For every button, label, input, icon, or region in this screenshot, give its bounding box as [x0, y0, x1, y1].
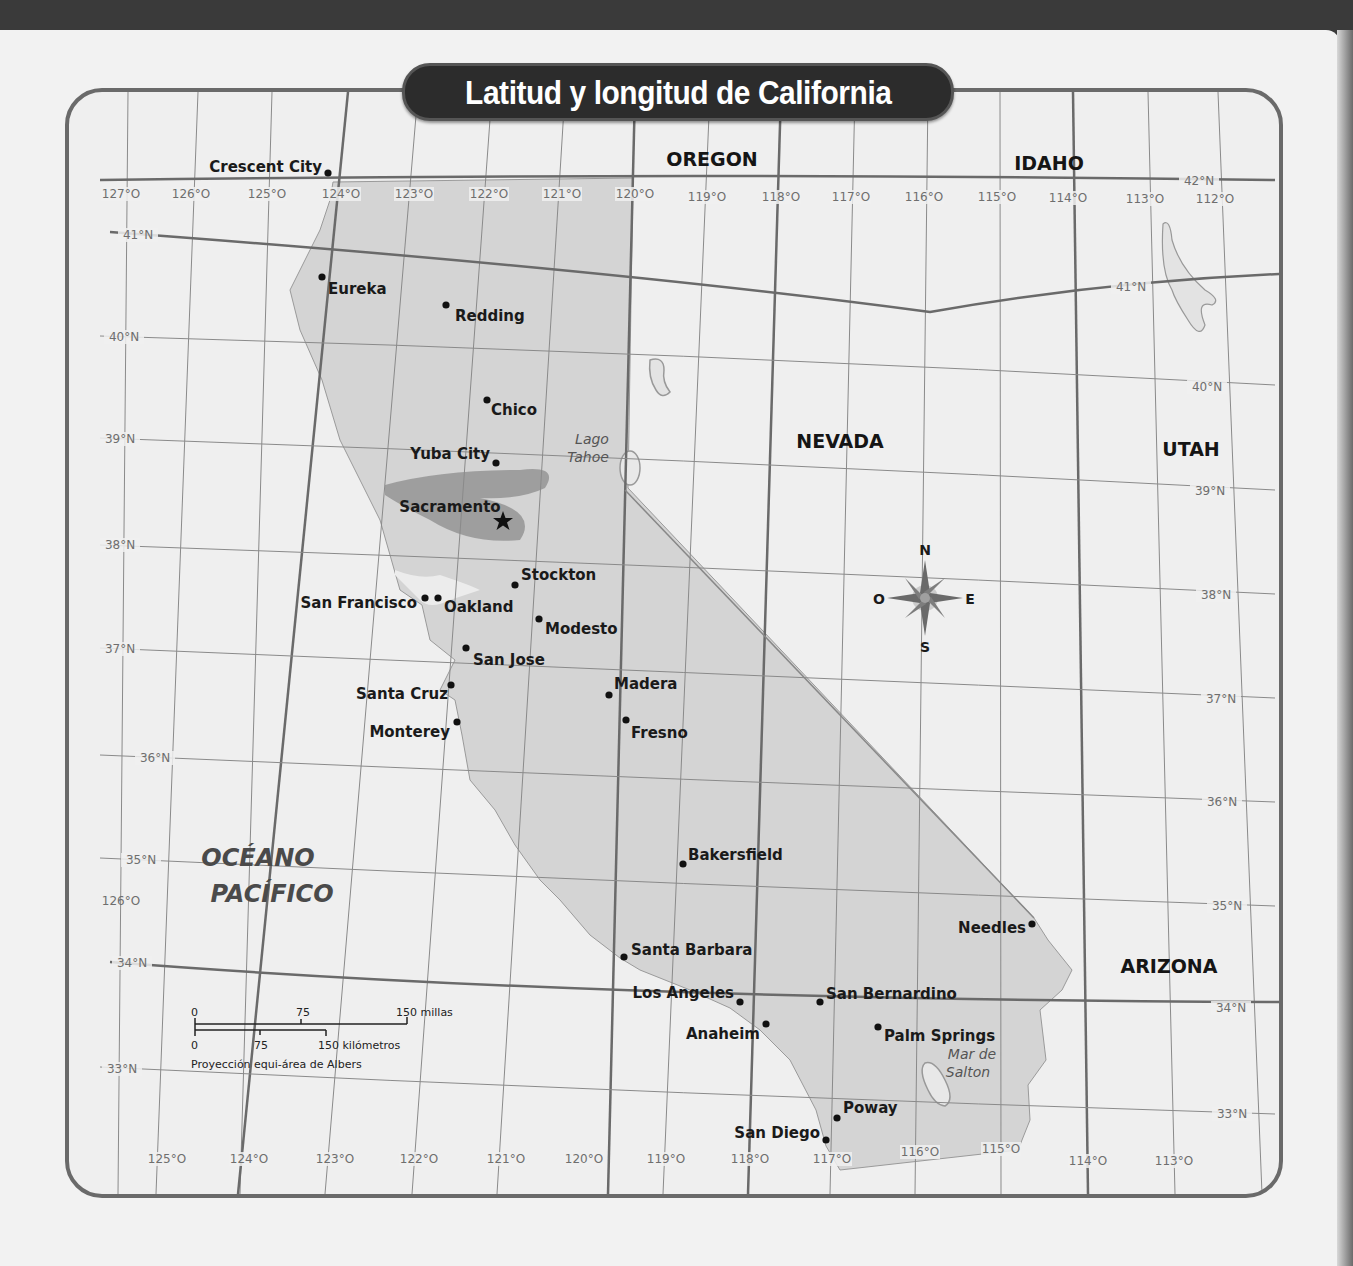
- city-dot-icon: [762, 1020, 769, 1027]
- lon-label-bottom: 116°O: [901, 1145, 939, 1159]
- city-label: Fresno: [631, 724, 688, 742]
- lat-label-right: 34°N: [1216, 1001, 1246, 1015]
- lon-label-bottom: 118°O: [731, 1152, 769, 1166]
- city-santa-barbara: Santa Barbara: [620, 941, 752, 961]
- city-label: Palm Springs: [884, 1027, 995, 1045]
- scale-km-zero: 0: [191, 1039, 198, 1052]
- city-label: Santa Barbara: [631, 941, 752, 959]
- city-dot-icon: [1028, 920, 1035, 927]
- city-santa-cruz: Santa Cruz: [356, 681, 455, 703]
- city-label: San Jose: [473, 651, 545, 669]
- city-label: Oakland: [444, 598, 514, 616]
- lon-label-top: 125°O: [248, 187, 286, 201]
- lon-label-top: 117°O: [832, 190, 870, 204]
- scale-km-end: 150 kilómetros: [318, 1039, 401, 1052]
- city-dot-icon: [318, 273, 325, 280]
- city-dot-icon: [874, 1023, 881, 1030]
- city-crescent-city: Crescent City: [209, 158, 331, 177]
- compass-east: E: [965, 591, 975, 607]
- lon-label-top: 120°O: [616, 187, 654, 201]
- ocean-label-line1: OCÉANO: [201, 843, 314, 872]
- city-label: San Diego: [734, 1124, 820, 1142]
- compass-west: O: [873, 591, 885, 607]
- city-label: San Francisco: [301, 594, 417, 612]
- city-label: Santa Cruz: [356, 685, 448, 703]
- city-dot-icon: [822, 1136, 829, 1143]
- city-label: Chico: [491, 401, 537, 419]
- city-label: Eureka: [328, 280, 387, 298]
- lon-label-bottom: 120°O: [565, 1152, 603, 1166]
- lon-label-top: 115°O: [978, 190, 1016, 204]
- lon-label-extra: 126°O: [102, 894, 140, 908]
- map-title-banner: Latitud y longitud de California: [402, 63, 954, 121]
- city-label: Needles: [958, 919, 1026, 937]
- city-dot-icon: [605, 691, 612, 698]
- city-dot-icon: [816, 998, 823, 1005]
- capital-label: Sacramento: [399, 498, 500, 516]
- lat-label-right: 33°N: [1217, 1107, 1247, 1121]
- lat-label-left: 33°N: [107, 1062, 137, 1076]
- city-dot-icon: [511, 581, 518, 588]
- lat-label-right: 42°N: [1184, 174, 1214, 188]
- city-dot-icon: [421, 594, 428, 601]
- city-needles: Needles: [958, 919, 1035, 937]
- city-dot-icon: [679, 860, 686, 867]
- city-label: Los Angeles: [633, 984, 735, 1002]
- water-label: Tahoe: [567, 449, 609, 465]
- city-oakland: Oakland: [434, 594, 513, 616]
- city-label: Stockton: [521, 566, 596, 584]
- lat-label-left: 36°N: [140, 751, 170, 765]
- lon-label-bottom: 125°O: [148, 1152, 186, 1166]
- city-dot-icon: [442, 301, 449, 308]
- city-palm-springs: Palm Springs: [874, 1023, 995, 1045]
- lat-label-left: 40°N: [109, 330, 139, 344]
- city-dot-icon: [434, 594, 441, 601]
- scale-miles-end: 150 millas: [396, 1006, 453, 1019]
- city-dot-icon: [447, 681, 454, 688]
- state-label-arizona: ARIZONA: [1121, 955, 1218, 977]
- city-label: Anaheim: [686, 1025, 760, 1043]
- water-label: Mar de: [948, 1046, 996, 1062]
- lon-label-top: 123°O: [395, 187, 433, 201]
- lat-label-left: 38°N: [105, 538, 135, 552]
- lon-label-top: 114°O: [1049, 191, 1087, 205]
- lon-label-bottom: 113°O: [1155, 1154, 1193, 1168]
- lon-label-bottom: 117°O: [813, 1152, 851, 1166]
- lat-label-right: 37°N: [1206, 692, 1236, 706]
- lon-label-top: 119°O: [688, 190, 726, 204]
- compass-south: S: [920, 639, 930, 655]
- scale-miles-mid: 75: [296, 1006, 310, 1019]
- lat-label-right: 39°N: [1195, 484, 1225, 498]
- lon-label-top: 112°O: [1196, 192, 1234, 206]
- lon-label-bottom: 119°O: [647, 1152, 685, 1166]
- lon-label-bottom: 123°O: [316, 1152, 354, 1166]
- lat-label-left: 34°N: [117, 956, 147, 970]
- water-label: Lago: [575, 431, 609, 447]
- lat-label-right: 40°N: [1192, 380, 1222, 394]
- scale-km-mid: 75: [254, 1039, 268, 1052]
- city-dot-icon: [736, 998, 743, 1005]
- lat-label-right: 38°N: [1201, 588, 1231, 602]
- lat-label-right: 41°N: [1116, 280, 1146, 294]
- lake-tahoe: [620, 451, 640, 485]
- city-dot-icon: [535, 615, 542, 622]
- lon-label-bottom: 114°O: [1069, 1154, 1107, 1168]
- lat-label-left: 39°N: [105, 432, 135, 446]
- lon-label-top: 122°O: [470, 187, 508, 201]
- city-dot-icon: [483, 396, 490, 403]
- lat-label-left: 35°N: [126, 853, 156, 867]
- city-san-bernardino: San Bernardino: [816, 985, 957, 1006]
- compass-north: N: [919, 542, 931, 558]
- city-san-diego: San Diego: [734, 1124, 829, 1144]
- state-label-oregon: OREGON: [666, 148, 757, 170]
- lat-label-left: 37°N: [105, 642, 135, 656]
- lon-label-top: 118°O: [762, 190, 800, 204]
- city-dot-icon: [324, 169, 331, 176]
- city-label: Madera: [614, 675, 677, 693]
- projection-note: Proyección equi-área de Albers: [191, 1058, 362, 1071]
- city-label: Redding: [455, 307, 525, 325]
- state-label-nevada: NEVADA: [796, 430, 884, 452]
- city-dot-icon: [462, 644, 469, 651]
- lon-label-top: 121°O: [543, 187, 581, 201]
- lat-label-right: 36°N: [1207, 795, 1237, 809]
